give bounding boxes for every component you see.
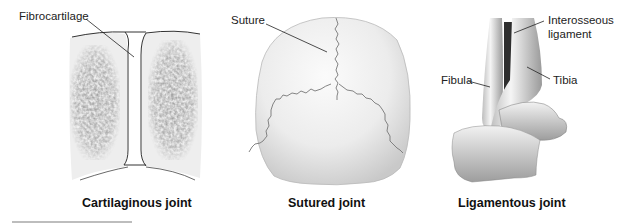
interosseous-label-line1: Interosseous <box>548 14 614 26</box>
fibula-label: Fibula <box>441 74 472 86</box>
ligamentous-joint-ankle-illustration <box>424 0 636 223</box>
interosseous-label-line2: ligament <box>548 28 591 40</box>
ligamentous-joint-panel: Interosseous ligament Fibula Tibia Ligam… <box>424 0 636 223</box>
ligamentous-joint-caption: Ligamentous joint <box>458 196 566 210</box>
sutured-joint-skull-illustration <box>212 0 424 223</box>
sutured-joint-panel: Suture Sutured joint <box>212 0 424 223</box>
cartilaginous-joint-illustration <box>0 0 212 223</box>
fibrocartilage-label: Fibrocartilage <box>19 10 89 22</box>
suture-label: Suture <box>231 14 265 26</box>
sutured-joint-caption: Sutured joint <box>288 196 365 210</box>
cartilaginous-joint-caption: Cartilaginous joint <box>82 196 192 210</box>
cartilaginous-joint-panel: Fibrocartilage Cartilaginous joint <box>0 0 212 223</box>
bottom-rule <box>12 221 132 223</box>
tibia-label: Tibia <box>553 74 578 86</box>
